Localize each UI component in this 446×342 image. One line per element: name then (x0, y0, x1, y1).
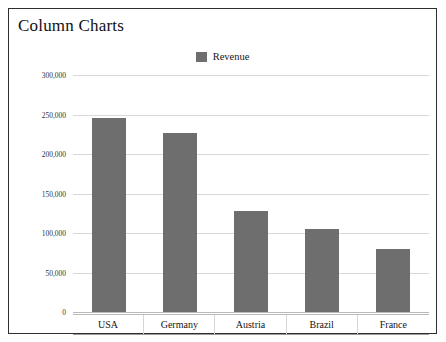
y-axis-tick-label: 300,000 (42, 71, 66, 80)
category-cell: France (358, 315, 429, 334)
bar-austria[interactable] (234, 211, 268, 313)
category-cell: Brazil (287, 315, 358, 334)
x-axis-category-label: Brazil (309, 319, 333, 330)
category-cell: Germany (144, 315, 215, 334)
plot-area: 050,000100,000150,000200,000250,000300,0… (73, 76, 429, 313)
y-axis-tick-label: 250,000 (42, 110, 66, 119)
chart-legend: Revenue (9, 51, 436, 62)
bar-brazil[interactable] (305, 229, 339, 313)
legend-item-revenue[interactable]: Revenue (196, 51, 250, 62)
page-title: Column Charts (18, 15, 124, 37)
x-axis-category-label: Germany (161, 319, 198, 330)
category-cell: USA (73, 315, 144, 334)
gridline: 300,000 (73, 75, 429, 76)
y-axis-tick-label: 0 (62, 308, 66, 317)
x-axis-category-label: USA (98, 319, 118, 330)
y-axis-tick-label: 50,000 (45, 268, 66, 277)
category-cell: Austria (215, 315, 286, 334)
y-axis-tick-label: 100,000 (42, 229, 66, 238)
gridline: 150,000 (73, 194, 429, 195)
legend-item-label: Revenue (213, 51, 250, 62)
chart-panel: Column Charts Revenue 050,000100,000150,… (8, 8, 437, 334)
y-axis-tick-label: 200,000 (42, 150, 66, 159)
x-axis-category-label: Austria (236, 319, 265, 330)
x-axis-category-label: France (380, 319, 407, 330)
y-axis-tick-label: 150,000 (42, 189, 66, 198)
gridline: 200,000 (73, 154, 429, 155)
bar-usa[interactable] (92, 118, 126, 313)
bar-germany[interactable] (163, 133, 197, 313)
category-axis: USAGermanyAustriaBrazilFrance (73, 314, 429, 335)
bar-france[interactable] (376, 249, 410, 313)
square-swatch-icon (196, 52, 207, 62)
gridline: 250,000 (73, 115, 429, 116)
axis-baseline (73, 312, 429, 313)
